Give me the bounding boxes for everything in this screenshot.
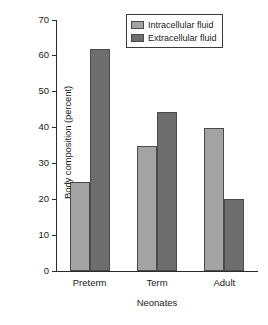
bar: [137, 146, 157, 271]
y-axis-tick-label: 0: [44, 265, 49, 277]
bar: [90, 49, 110, 271]
y-axis-tick-label: 60: [38, 49, 49, 61]
y-axis-tick-label: 10: [38, 229, 49, 241]
y-axis-tick-label: 70: [38, 14, 49, 26]
y-axis-tick-label: 50: [38, 85, 49, 97]
bar: [224, 199, 244, 271]
legend-item-label: Intracellular fluid: [148, 20, 214, 30]
legend-item: Extracellular fluid: [131, 31, 217, 44]
x-axis-category-label: Adult: [184, 277, 264, 288]
y-axis-tick-label: 40: [38, 121, 49, 133]
x-axis-line: [56, 271, 258, 272]
bar: [204, 128, 224, 271]
legend-swatch-icon: [131, 21, 144, 29]
legend-item-label: Extracellular fluid: [148, 33, 217, 43]
y-axis-tick-label: 20: [38, 193, 49, 205]
chart-legend: Intracellular fluid Extracellular fluid: [126, 14, 223, 48]
bar-chart: Body composition (percent) 0102030405060…: [0, 0, 268, 325]
bar: [70, 182, 90, 271]
y-axis-tick-label: 30: [38, 157, 49, 169]
bars-layer: [56, 20, 258, 271]
legend-item: Intracellular fluid: [131, 18, 217, 31]
bar: [157, 112, 177, 271]
x-axis-title: Neonates: [56, 297, 258, 308]
legend-swatch-icon: [131, 34, 144, 42]
